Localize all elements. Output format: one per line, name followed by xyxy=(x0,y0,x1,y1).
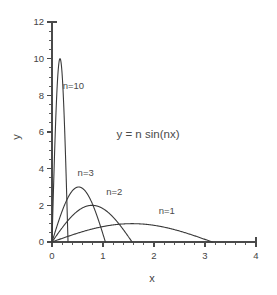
y-tick-label: 10 xyxy=(33,53,44,64)
curve-label-n3: n=3 xyxy=(78,167,94,178)
y-tick-label: 4 xyxy=(39,163,44,174)
y-tick-label: 8 xyxy=(39,90,44,101)
chart-figure: 02468101201234 n=1n=2n=3n=10 x y y = n s… xyxy=(0,0,277,295)
y-tick-label: 12 xyxy=(33,16,44,27)
x-axis-title: x xyxy=(149,272,155,284)
x-tick-label: 2 xyxy=(151,250,156,261)
x-tick-label: 0 xyxy=(49,250,54,261)
y-tick-label: 0 xyxy=(39,236,44,247)
curve-label-n1: n=1 xyxy=(159,205,175,216)
y-tick-label: 2 xyxy=(39,200,44,211)
curve-label-n2: n=2 xyxy=(106,186,122,197)
curve-n1 xyxy=(52,224,212,242)
x-tick-label: 4 xyxy=(253,250,258,261)
curve-n3 xyxy=(52,187,105,242)
x-tick-label: 1 xyxy=(100,250,105,261)
curve-labels: n=1n=2n=3n=10 xyxy=(63,80,175,216)
x-tick-label: 3 xyxy=(202,250,207,261)
equation-annotation: y = n sin(nx) xyxy=(117,128,180,140)
chart-plot-area: 02468101201234 n=1n=2n=3n=10 x y y = n s… xyxy=(0,0,277,295)
curve-label-n10: n=10 xyxy=(63,80,84,91)
y-tick-label: 6 xyxy=(39,126,44,137)
y-axis-title: y xyxy=(10,134,22,140)
